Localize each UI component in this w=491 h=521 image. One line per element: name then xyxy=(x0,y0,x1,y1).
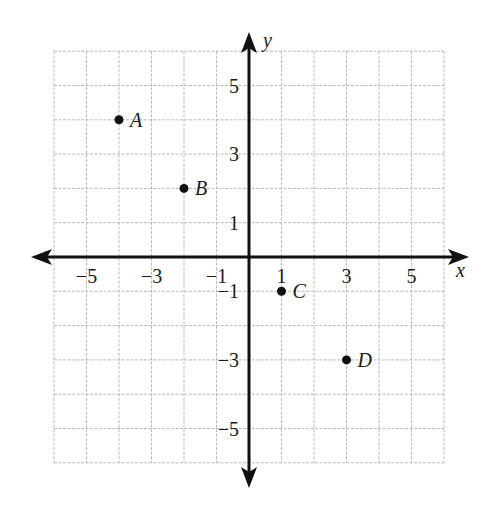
x-axis-label: x xyxy=(455,259,465,281)
point-dot xyxy=(277,287,286,296)
x-tick-label: −5 xyxy=(76,265,97,287)
y-tick-label: −3 xyxy=(218,349,239,371)
point-dot xyxy=(180,184,189,193)
point-label: B xyxy=(195,177,207,199)
y-tick-label: 5 xyxy=(229,75,239,97)
x-tick-label: 3 xyxy=(342,265,352,287)
x-tick-labels: −5−3−1135 xyxy=(76,265,417,287)
coordinate-plane: x y −5−3−1135 531−1−3−5 ABCD xyxy=(0,0,491,521)
axes: x y xyxy=(31,29,469,488)
point-label: C xyxy=(293,280,307,302)
point-dot xyxy=(115,115,124,124)
plotted-points: ABCD xyxy=(115,109,373,371)
y-tick-label: 3 xyxy=(229,143,239,165)
x-tick-label: 5 xyxy=(407,265,417,287)
y-tick-label: 1 xyxy=(229,212,239,234)
x-tick-label: 1 xyxy=(277,265,287,287)
point-label: A xyxy=(128,109,143,131)
x-tick-label: −3 xyxy=(141,265,162,287)
y-tick-label: −5 xyxy=(218,418,239,440)
point-label: D xyxy=(357,349,373,371)
y-tick-label: −1 xyxy=(218,280,239,302)
point-dot xyxy=(342,355,351,364)
y-axis-label: y xyxy=(261,29,272,52)
